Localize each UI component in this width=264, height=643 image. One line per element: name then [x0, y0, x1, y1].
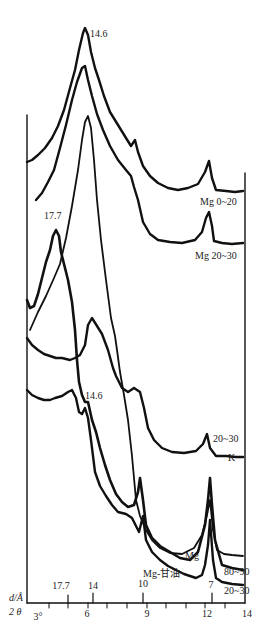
theta-tick-14: 14	[242, 608, 252, 619]
series-label-20-30-bottom: 20~30	[224, 585, 249, 596]
d-axis-label: d/Å	[9, 592, 23, 603]
peak-label-14-6-lower: 14.6	[85, 390, 103, 401]
series-label-80-90: 80~90	[224, 566, 249, 577]
series-label-mg-0-20: Mg 0~20	[200, 196, 237, 207]
d-tick-14: 14	[88, 580, 98, 591]
series-label-mg: Mg	[185, 550, 199, 561]
trace-k-20-30	[27, 318, 243, 457]
theta-tick-12: 12	[202, 608, 212, 619]
d-spacing-ticks	[68, 593, 212, 603]
theta-tick-3: 3°	[34, 611, 43, 622]
series-label-mg-20-30: Mg 20~30	[195, 250, 237, 261]
d-tick-17-7: 17.7	[52, 580, 70, 591]
d-tick-10: 10	[138, 578, 148, 589]
series-label-k-depth: 20~30	[213, 433, 238, 444]
peak-label-14-6-top: 14.6	[90, 28, 108, 39]
xrd-chart	[0, 0, 264, 643]
d-tick-7: 7	[209, 579, 214, 590]
theta-axis-label: 2 θ	[9, 606, 21, 617]
series-label-k: K	[228, 452, 235, 463]
theta-tick-9: 9	[145, 608, 150, 619]
theta-tick-6: 6	[85, 608, 90, 619]
peak-label-17-7: 17.7	[44, 210, 62, 221]
series-label-mg-glycerol: Mg-甘油	[143, 568, 180, 579]
trace-mg-0-20	[27, 28, 243, 192]
x-axis-ticks	[49, 603, 225, 608]
